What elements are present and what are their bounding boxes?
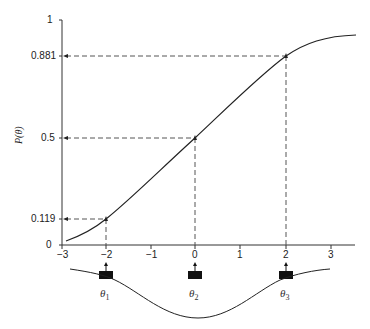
x-tick-label: 2 bbox=[283, 249, 289, 260]
y-axis-label-theta: θ bbox=[13, 130, 24, 135]
x-tick-label: −2 bbox=[101, 249, 112, 260]
y-tick-label: 0.119 bbox=[31, 213, 55, 224]
y-tick-label: 1 bbox=[47, 14, 53, 25]
x-tick-label: 1 bbox=[237, 249, 243, 260]
arrowheads-left bbox=[63, 54, 68, 221]
y-axis-label: P(θ) bbox=[13, 126, 24, 144]
y-tick-label: 0.5 bbox=[41, 132, 55, 143]
y-tick-label: 0.881 bbox=[31, 50, 56, 61]
x-tick-label: 3 bbox=[328, 249, 334, 260]
theta-3-label: θ3 bbox=[280, 287, 289, 302]
irt-logistic-chart: 1 0.881 0.5 0.119 0 P(θ) −3 −2 −1 0 1 2 … bbox=[0, 0, 370, 329]
x-tick-label: −1 bbox=[146, 249, 157, 260]
y-tick-label: 0 bbox=[46, 239, 52, 250]
x-tick-label: 0 bbox=[192, 249, 198, 260]
y-axis-label-suffix: ) bbox=[13, 126, 24, 129]
theta-2-marker bbox=[188, 271, 202, 279]
x-tick-label: −3 bbox=[57, 249, 68, 260]
theta-markers bbox=[99, 262, 293, 279]
y-axis-label-prefix: P( bbox=[13, 135, 24, 144]
theta-subscript: 1 bbox=[105, 293, 109, 302]
theta-1-label: θ1 bbox=[100, 287, 109, 302]
theta-subscript: 3 bbox=[285, 293, 289, 302]
theta-subscript: 2 bbox=[194, 293, 198, 302]
theta-2-label: θ2 bbox=[189, 287, 198, 302]
